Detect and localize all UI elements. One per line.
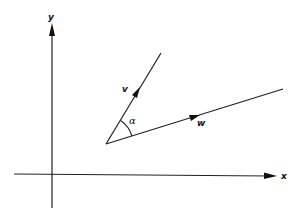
- x-axis-arrowhead-icon: [264, 173, 277, 180]
- x-axis: [14, 173, 277, 180]
- vector-v-label: v: [122, 84, 129, 94]
- vector-v-arrowhead-icon: [132, 87, 140, 98]
- vector-w-label: w: [197, 118, 206, 128]
- y-axis-label: y: [48, 12, 55, 22]
- x-axis-label: x: [280, 171, 288, 181]
- vector-v: [106, 53, 161, 144]
- angle-alpha-label: α: [129, 115, 136, 126]
- y-axis: [49, 23, 55, 208]
- vector-angle-diagram: y x v w α: [0, 0, 303, 222]
- y-axis-arrowhead-icon: [49, 23, 55, 36]
- diagram-canvas: y x v w α: [0, 0, 303, 222]
